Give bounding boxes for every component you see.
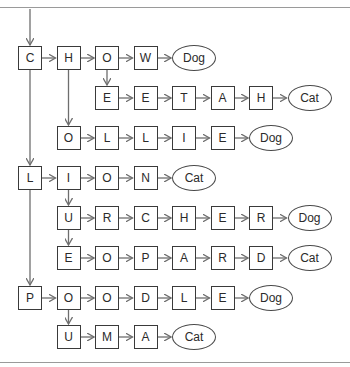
trie-node: E [134,86,158,110]
leaf-dog: Dog [288,205,332,231]
leaf-cat: Cat [288,85,332,111]
trie-node: T [172,86,196,110]
trie-node: C [134,206,158,230]
trie-node: D [249,246,273,270]
trie-node: R [211,246,235,270]
trie-node: U [57,325,81,349]
leaf-dog: Dog [172,45,216,71]
trie-node: O [95,246,119,270]
trie-node: A [134,325,158,349]
trie-node: R [249,206,273,230]
trie-node: O [57,126,81,150]
leaf-dog: Dog [249,285,293,311]
trie-node: H [172,206,196,230]
trie-node: N [134,166,158,190]
trie-node: U [57,206,81,230]
trie-node: A [172,246,196,270]
leaf-cat: Cat [172,165,216,191]
trie-node: H [57,46,81,70]
leaf-dog: Dog [249,125,293,151]
trie-node: O [95,166,119,190]
trie-node: I [172,126,196,150]
leaf-cat: Cat [288,245,332,271]
trie-node: D [134,286,158,310]
trie-node: L [134,126,158,150]
trie-node: W [134,46,158,70]
trie-node: L [95,126,119,150]
trie-node: A [211,86,235,110]
trie-node: C [18,46,42,70]
trie-node: E [95,86,119,110]
trie-node: E [57,246,81,270]
trie-node: M [95,325,119,349]
trie-node: O [57,286,81,310]
leaf-cat: Cat [172,324,216,350]
trie-node: E [211,286,235,310]
trie-node: H [249,86,273,110]
trie-node: E [211,126,235,150]
trie-node: E [211,206,235,230]
trie-node: O [95,46,119,70]
trie-node: I [57,166,81,190]
trie-node: L [172,286,196,310]
trie-node: O [95,286,119,310]
trie-node: P [134,246,158,270]
trie-node: R [95,206,119,230]
trie-node: L [18,166,42,190]
trie-node: P [18,286,42,310]
